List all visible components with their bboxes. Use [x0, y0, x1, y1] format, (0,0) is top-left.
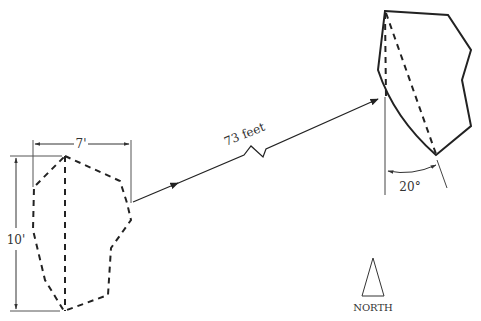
north-arrow-icon [362, 258, 384, 296]
translation-arrow: 73 feet [133, 99, 378, 202]
north-label: NORTH [353, 302, 393, 313]
moved-outline [378, 11, 471, 155]
angle-label: 20° [399, 180, 420, 194]
north-indicator: NORTH [353, 258, 393, 313]
diagram-svg: 7' 10' 73 feet 20° [0, 0, 481, 321]
width-dimension: 7' [33, 137, 131, 203]
original-outline [33, 156, 131, 311]
width-dimension-label: 7' [76, 137, 87, 151]
moved-diagonal-line [386, 13, 436, 154]
moved-shape [378, 11, 471, 155]
distance-label: 73 feet [222, 120, 267, 149]
moved-axis-line [385, 13, 386, 97]
height-dimension-label: 10' [7, 233, 26, 247]
original-shape [33, 156, 131, 311]
rotation-angle: 20° [385, 97, 447, 195]
transformation-diagram: 7' 10' 73 feet 20° [0, 0, 481, 321]
